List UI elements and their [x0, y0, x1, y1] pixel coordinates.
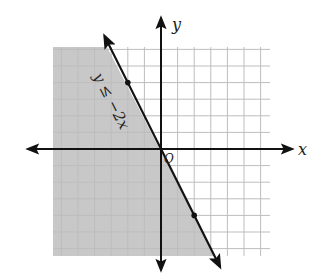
shaded-solution-region — [53, 47, 215, 256]
origin-label: O — [164, 152, 174, 166]
x-axis-label: x — [298, 140, 307, 159]
y-axis-label: y — [171, 15, 182, 34]
coordinate-plane: x y O y ≤ −2x — [0, 0, 313, 274]
